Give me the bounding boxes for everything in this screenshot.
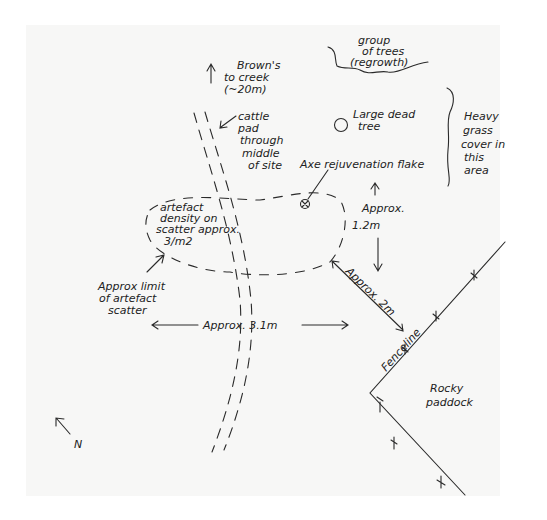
axe-flake-label: Axe rejuvenation flake xyxy=(299,158,424,171)
cattle-pad-track xyxy=(194,112,252,452)
scatter-limit-label-3: scatter xyxy=(108,304,148,317)
paddock-label-1: Rocky xyxy=(430,382,464,395)
axe-flake-marker xyxy=(301,170,329,209)
dead-tree-label-2: tree xyxy=(358,120,381,133)
grass-label-3: cover in xyxy=(461,138,505,151)
density-label-4: 3/m2 xyxy=(164,235,192,248)
site-sketch-map: Axe rejuvenation flake Large dead tree g… xyxy=(0,0,547,520)
tree-group-label-3: (regrowth) xyxy=(350,56,408,69)
dist-horizontal-label: Approx. 3.1m xyxy=(202,319,277,332)
grass-label-1: Heavy xyxy=(464,110,499,123)
cattle-pad-label-5: of site xyxy=(248,159,282,172)
north-arrow-icon xyxy=(56,418,70,434)
creek-arrow-icon xyxy=(207,64,215,83)
dist-vertical-label-1: Approx. xyxy=(361,202,405,215)
fenceline-label: Fenceline xyxy=(379,326,424,374)
north-label: N xyxy=(74,438,82,451)
creek-label-3: (~20m) xyxy=(224,83,267,96)
dist-diagonal-label: Approx. 2m xyxy=(342,264,398,318)
cattle-pad-arrow xyxy=(220,116,236,128)
grass-label-4: this xyxy=(464,151,484,164)
paddock-label-2: paddock xyxy=(425,396,473,409)
dist-vertical-label-2: 1.2m xyxy=(352,219,380,232)
cattle-pad-label-3: through xyxy=(240,134,283,147)
grass-label-5: area xyxy=(464,164,489,177)
scatter-limit-arrow xyxy=(147,255,164,272)
dead-tree-icon xyxy=(335,119,348,132)
grass-brace xyxy=(447,88,453,186)
grass-label-2: grass xyxy=(463,124,493,137)
